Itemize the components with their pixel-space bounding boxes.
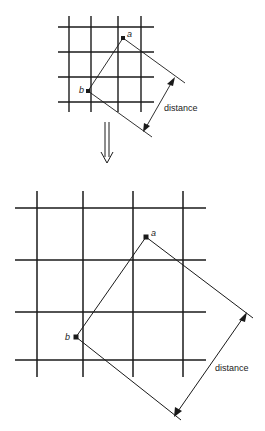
- bottom-distance-label: distance: [215, 364, 249, 373]
- top-rectangle: [88, 38, 185, 137]
- bottom-rectangle: [76, 237, 253, 420]
- top-figure: [58, 16, 185, 137]
- bottom-point-b-label: b: [65, 333, 70, 342]
- top-point-b-marker: [86, 89, 90, 93]
- top-point-a-label: a: [127, 30, 132, 39]
- top-point-a-marker: [121, 36, 125, 40]
- bottom-point-b-marker: [74, 335, 79, 340]
- bottom-point-a-marker: [144, 235, 149, 240]
- bottom-point-a-label: a: [151, 229, 156, 238]
- top-point-b-label: b: [79, 86, 84, 95]
- bottom-figure: [15, 191, 253, 420]
- top-distance-label: distance: [164, 104, 198, 113]
- double-down-arrow-icon: [101, 122, 113, 163]
- bottom-grid: [15, 191, 206, 377]
